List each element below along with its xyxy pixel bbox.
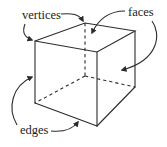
hidden-bottom-back-edge bbox=[85, 76, 135, 87]
right-bottom-edge bbox=[97, 87, 135, 126]
vertices-label: vertices bbox=[22, 8, 61, 22]
edges-label: edges bbox=[20, 123, 49, 137]
edges-arrow-bottom-icon bbox=[51, 122, 78, 131]
vertices-arrow-left-icon bbox=[24, 24, 32, 40]
cube bbox=[35, 23, 135, 126]
edges-arrow-left-icon bbox=[12, 77, 32, 125]
faces-arrow-right-icon bbox=[122, 21, 157, 70]
faces-label: faces bbox=[128, 5, 154, 19]
cube-diagram: vertices faces edges bbox=[0, 0, 167, 147]
faces-arrow-top-icon bbox=[92, 11, 125, 33]
vertices-arrow-top-icon bbox=[61, 14, 83, 21]
hidden-bottom-left-edge bbox=[35, 76, 85, 103]
